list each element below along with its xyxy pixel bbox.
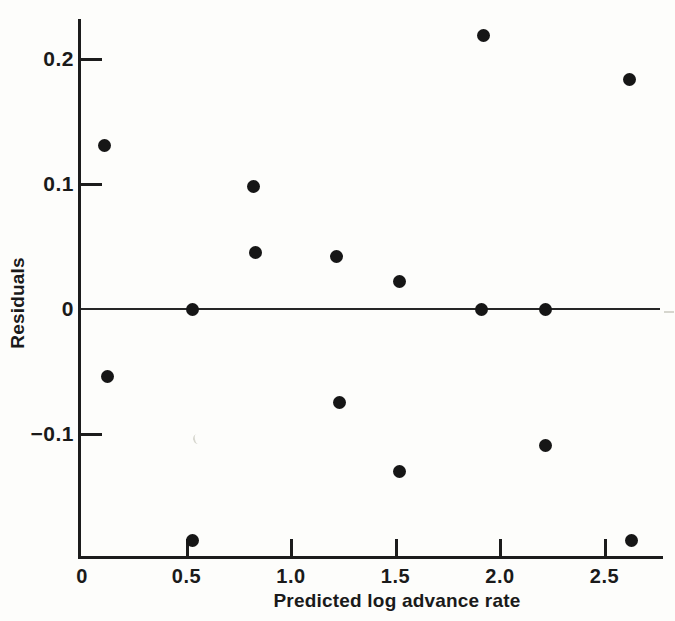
x-tick-mark	[290, 539, 293, 556]
y-tick-label: 0.1	[0, 171, 74, 197]
x-tick-label: 2.0	[468, 565, 532, 588]
y-tick-mark	[81, 183, 102, 186]
x-tick-mark	[604, 539, 607, 556]
x-tick-label: 0	[50, 565, 114, 588]
data-point	[475, 303, 488, 316]
data-point	[539, 303, 552, 316]
y-axis-line	[78, 19, 81, 559]
y-tick-label: 0.2	[0, 46, 74, 72]
zero-reference-line	[81, 308, 660, 310]
data-point	[333, 396, 346, 409]
residual-scatter-plot-figure: 0.20.10−0.100.51.01.52.02.5 Predicted lo…	[0, 0, 675, 621]
data-point	[393, 465, 406, 478]
data-point	[393, 275, 406, 288]
data-point	[623, 73, 636, 86]
y-tick-mark	[81, 58, 102, 61]
data-point	[186, 303, 199, 316]
data-point	[477, 29, 490, 42]
data-point	[247, 180, 260, 193]
x-axis-title: Predicted log advance rate	[247, 590, 547, 612]
y-tick-mark	[81, 433, 102, 436]
x-axis-line	[78, 556, 663, 559]
x-tick-label: 1.5	[364, 565, 428, 588]
smudge-dash	[664, 311, 674, 313]
x-tick-mark	[499, 539, 502, 556]
x-tick-label: 1.0	[259, 565, 323, 588]
data-point	[98, 139, 111, 152]
data-point	[186, 534, 199, 547]
data-point	[249, 246, 262, 259]
data-point	[101, 370, 114, 383]
data-point	[539, 439, 552, 452]
data-point	[625, 534, 638, 547]
x-tick-label: 2.5	[573, 565, 637, 588]
y-tick-label: −0.1	[0, 421, 74, 447]
x-tick-mark	[395, 539, 398, 556]
data-point	[330, 250, 343, 263]
x-tick-label: 0.5	[155, 565, 219, 588]
y-axis-title-text: Residuals	[7, 257, 29, 349]
smudge-crescent	[192, 433, 203, 445]
